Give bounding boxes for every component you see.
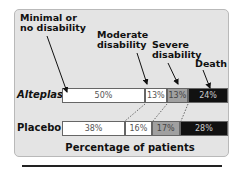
x-axis-label: Percentage of patients	[0, 142, 240, 153]
bottom-rule	[22, 165, 222, 167]
